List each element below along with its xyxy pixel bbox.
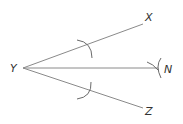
segment-yx <box>23 24 143 68</box>
construction-arc-n-right <box>158 58 161 78</box>
construction-arc-upper <box>77 40 92 58</box>
segment-yz <box>23 68 143 108</box>
angle-bisector-diagram: Y X N Z <box>0 0 183 124</box>
construction-arc-n-left <box>147 62 158 70</box>
label-z: Z <box>144 105 153 118</box>
label-n: N <box>164 63 172 76</box>
label-y: Y <box>10 62 18 75</box>
label-x: X <box>144 11 153 24</box>
